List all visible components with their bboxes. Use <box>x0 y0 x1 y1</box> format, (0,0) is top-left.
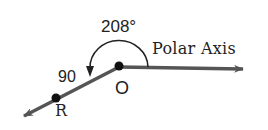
point-r-label: R <box>55 103 67 119</box>
angle-label: 208° <box>101 18 136 35</box>
origin-dot <box>115 62 124 71</box>
polar-axis-ray <box>119 67 243 69</box>
polar-axis-label: Polar Axis <box>152 41 236 57</box>
origin-label: O <box>115 79 129 97</box>
polar-diagram: 208° Polar Axis 90 O R <box>0 0 268 130</box>
angle-arc-arrowhead-icon <box>86 66 94 77</box>
radius-label: 90 <box>58 69 76 85</box>
